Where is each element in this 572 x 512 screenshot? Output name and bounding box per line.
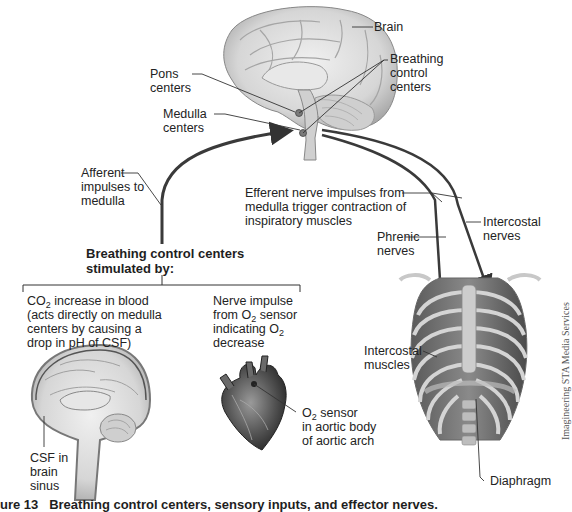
label-line: CSF in xyxy=(30,451,68,465)
label-line: Pons xyxy=(150,67,191,81)
o2-input-label: Nerve impulse from O2 sensor indicating … xyxy=(213,294,297,350)
text: sensor xyxy=(256,308,297,322)
figure-caption: ure 13 Breathing control centers, sensor… xyxy=(0,497,438,512)
csf-label: CSF in brain sinus xyxy=(30,451,68,493)
efferent-impulses-label: Efferent nerve impulses from medulla tri… xyxy=(245,186,406,228)
text: increase in blood xyxy=(51,294,149,308)
brain-label: Brain xyxy=(374,20,403,34)
text: indicating O xyxy=(213,322,279,336)
label-line: Nerve impulse xyxy=(213,294,297,308)
subscript: 2 xyxy=(279,328,284,338)
label-line: centers xyxy=(390,80,444,94)
label-line: Intercostal xyxy=(483,215,541,229)
label-line: centers by causing a xyxy=(27,322,162,336)
label-line: centers xyxy=(150,81,191,95)
label-line: centers xyxy=(163,121,207,135)
co2-input-label: CO2 increase in blood (acts directly on … xyxy=(27,294,162,350)
label-line: (acts directly on medulla xyxy=(27,308,162,322)
heading-line: Breathing control centers xyxy=(86,246,244,261)
stimulated-by-heading: Breathing control centers stimulated by: xyxy=(86,246,244,276)
o2-sensor-label: O2 sensor in aortic body of aortic arch xyxy=(302,406,376,448)
label-line: sinus xyxy=(30,479,68,493)
text: sensor xyxy=(317,406,358,420)
caption-number: ure 13 xyxy=(0,497,38,512)
text: CO xyxy=(27,294,46,308)
label-line: impulses to xyxy=(81,180,144,194)
label-line: Afferent xyxy=(81,166,144,180)
label-line: control xyxy=(390,66,444,80)
image-credit: Imagineering STA Media Services xyxy=(560,302,571,440)
label-line: inspiratory muscles xyxy=(245,214,406,228)
label-line: Breathing xyxy=(390,52,444,66)
label-line: drop in pH of CSF) xyxy=(27,336,162,350)
intercostal-nerves-label: Intercostal nerves xyxy=(483,215,541,243)
label-line: O2 sensor xyxy=(302,406,376,420)
label-line: Medulla xyxy=(163,107,207,121)
label-line: muscles xyxy=(364,358,422,372)
label-line: decrease xyxy=(213,336,297,350)
text: from O xyxy=(213,308,251,322)
label-line: brain xyxy=(30,465,68,479)
intercostal-muscles-label: Intercostal muscles xyxy=(364,344,422,372)
label-line: Phrenic xyxy=(377,230,419,244)
text: O xyxy=(302,406,312,420)
label-line: medulla trigger contraction of xyxy=(245,200,406,214)
label-line: medulla xyxy=(81,194,144,208)
pons-centers-label: Pons centers xyxy=(150,67,191,95)
heading-line: stimulated by: xyxy=(86,261,244,276)
diaphragm-label: Diaphragm xyxy=(490,474,551,488)
label-line: of aortic arch xyxy=(302,434,376,448)
medulla-centers-label: Medulla centers xyxy=(163,107,207,135)
label-line: Efferent nerve impulses from xyxy=(245,186,406,200)
phrenic-nerves-label: Phrenic nerves xyxy=(377,230,419,258)
caption-text: Breathing control centers, sensory input… xyxy=(49,497,438,512)
label-line: in aortic body xyxy=(302,420,376,434)
label-line: nerves xyxy=(377,244,419,258)
label-line: indicating O2 xyxy=(213,322,297,336)
label-line: from O2 sensor xyxy=(213,308,297,322)
label-line: CO2 increase in blood xyxy=(27,294,162,308)
afferent-impulses-label: Afferent impulses to medulla xyxy=(81,166,144,208)
heart-illustration xyxy=(220,356,286,450)
breathing-control-centers-label: Breathing control centers xyxy=(390,52,444,94)
label-line: nerves xyxy=(483,229,541,243)
stimuli-bracket xyxy=(23,275,300,292)
label-line: Intercostal xyxy=(364,344,422,358)
